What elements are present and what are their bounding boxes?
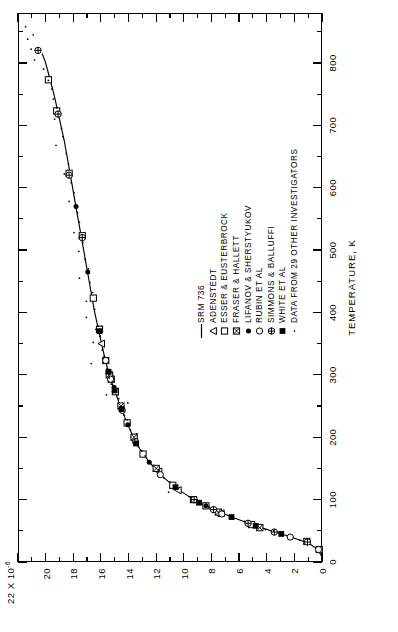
legend-item-esser-eusterbrock: ESSER & EUSTERBROCK bbox=[219, 149, 231, 340]
marker-dot bbox=[104, 355, 106, 357]
marker-filled-circle bbox=[125, 422, 130, 427]
legend-label: SRM 736 bbox=[197, 285, 206, 323]
marker-circle-cross bbox=[35, 47, 41, 53]
marker-dot bbox=[99, 335, 101, 337]
marker-dot bbox=[61, 128, 63, 130]
legend-marker-open-square-icon bbox=[219, 323, 230, 340]
legend-item-rubin-et-al: RUBIN ET AL bbox=[254, 149, 266, 340]
marker-dot bbox=[134, 439, 136, 441]
marker-dot bbox=[62, 136, 64, 138]
marker-dot bbox=[68, 201, 70, 203]
legend-label: FRASER & HALLETT bbox=[232, 235, 241, 323]
marker-dot bbox=[54, 118, 56, 120]
marker-filled-circle bbox=[203, 503, 208, 508]
marker-dot bbox=[51, 88, 53, 90]
marker-dot bbox=[144, 455, 146, 457]
marker-dot bbox=[82, 242, 84, 244]
marker-dot bbox=[115, 388, 117, 390]
marker-dot bbox=[52, 98, 54, 100]
marker-dot bbox=[66, 153, 68, 155]
marker-dot bbox=[110, 383, 112, 385]
marker-dot bbox=[208, 506, 210, 508]
marker-crossed-square bbox=[153, 465, 159, 471]
marker-circle-cross bbox=[304, 539, 310, 545]
marker-dot bbox=[233, 517, 235, 519]
marker-dot bbox=[127, 402, 129, 404]
legend-item-white-et-al: WHITE ET AL bbox=[277, 149, 289, 340]
marker-dot bbox=[73, 192, 75, 194]
marker-dot bbox=[92, 292, 94, 294]
marker-dot bbox=[126, 419, 128, 421]
marker-dot bbox=[88, 268, 90, 270]
marker-filled-square bbox=[280, 329, 286, 335]
legend-marker-dot-icon bbox=[289, 323, 300, 340]
marker-dot bbox=[78, 250, 80, 252]
marker-dot bbox=[25, 26, 27, 28]
marker-dot bbox=[136, 433, 138, 435]
marker-dot bbox=[77, 212, 79, 214]
marker-open-circle bbox=[257, 328, 263, 334]
legend-label: ESSER & EUSTERBROCK bbox=[220, 212, 229, 323]
marker-circle-cross bbox=[66, 172, 72, 178]
marker-dot bbox=[188, 496, 190, 498]
marker-dot bbox=[157, 469, 159, 471]
marker-dot bbox=[264, 529, 266, 531]
marker-dot bbox=[121, 406, 123, 408]
legend-marker-filled-square-icon bbox=[277, 323, 288, 340]
marker-dot bbox=[48, 80, 50, 82]
marker-filled-square bbox=[97, 328, 103, 334]
legend-item-data-from-29-other-investigators: DATA FROM 29 OTHER INVESTIGATORS bbox=[289, 149, 301, 340]
series-lifanov-sherstyukov bbox=[74, 204, 209, 508]
marker-dot bbox=[73, 232, 75, 234]
legend-marker-line-icon bbox=[196, 323, 207, 340]
marker-filled-square bbox=[196, 500, 202, 506]
legend-label: WHITE ET AL bbox=[278, 266, 287, 323]
legend-marker-open-triangle-icon bbox=[208, 323, 219, 340]
marker-dot bbox=[86, 300, 88, 302]
marker-dot bbox=[68, 163, 70, 165]
legend-label: LIFANOV & SHERSTYUKOV bbox=[244, 205, 253, 323]
marker-dot bbox=[79, 221, 81, 223]
marker-dot bbox=[89, 282, 91, 284]
series-adenstedt bbox=[95, 326, 181, 494]
x-axis-title: TEMPERATURE, K bbox=[346, 239, 357, 336]
marker-filled-square bbox=[253, 523, 259, 529]
marker-dot bbox=[27, 38, 29, 40]
legend-item-adenstedt: ADENSTEDT bbox=[208, 149, 220, 340]
marker-dot bbox=[70, 182, 72, 184]
marker-circle-cross bbox=[79, 234, 85, 240]
marker-open-circle bbox=[107, 376, 113, 382]
marker-filled-square bbox=[173, 484, 179, 490]
marker-circle-cross bbox=[245, 520, 251, 526]
marker-filled-square bbox=[133, 441, 139, 447]
marker-circle-cross bbox=[271, 529, 277, 535]
marker-open-square bbox=[90, 295, 96, 301]
legend-label: SIMMONS & BALLUFFI bbox=[267, 226, 276, 323]
figure-page: 22 X 10-6 010020030040050060070080002468… bbox=[0, 0, 398, 632]
marker-dot bbox=[43, 68, 45, 70]
marker-open-circle bbox=[157, 472, 163, 478]
marker-filled-circle bbox=[85, 269, 90, 274]
marker-dot bbox=[294, 331, 296, 333]
marker-open-triangle bbox=[210, 328, 216, 335]
marker-crossed-square bbox=[233, 328, 239, 334]
marker-filled-square bbox=[278, 531, 284, 537]
legend-marker-filled-circle-icon bbox=[243, 323, 254, 340]
marker-dot bbox=[56, 107, 58, 109]
marker-dot bbox=[84, 259, 86, 261]
marker-circle-cross bbox=[268, 328, 274, 334]
marker-dot bbox=[108, 377, 110, 379]
marker-open-circle bbox=[315, 546, 321, 552]
marker-dot bbox=[79, 277, 81, 279]
series-white-et-al bbox=[97, 328, 285, 537]
marker-dot bbox=[168, 491, 170, 493]
marker-dot bbox=[273, 530, 275, 532]
marker-circle-cross bbox=[55, 111, 61, 117]
marker-dot bbox=[97, 325, 99, 327]
marker-filled-circle bbox=[74, 204, 79, 209]
marker-dot bbox=[86, 317, 88, 319]
marker-dot bbox=[244, 521, 246, 523]
marker-dot bbox=[163, 477, 165, 479]
marker-open-circle bbox=[287, 534, 293, 540]
legend-label: DATA FROM 29 OTHER INVESTIGATORS bbox=[290, 149, 299, 323]
